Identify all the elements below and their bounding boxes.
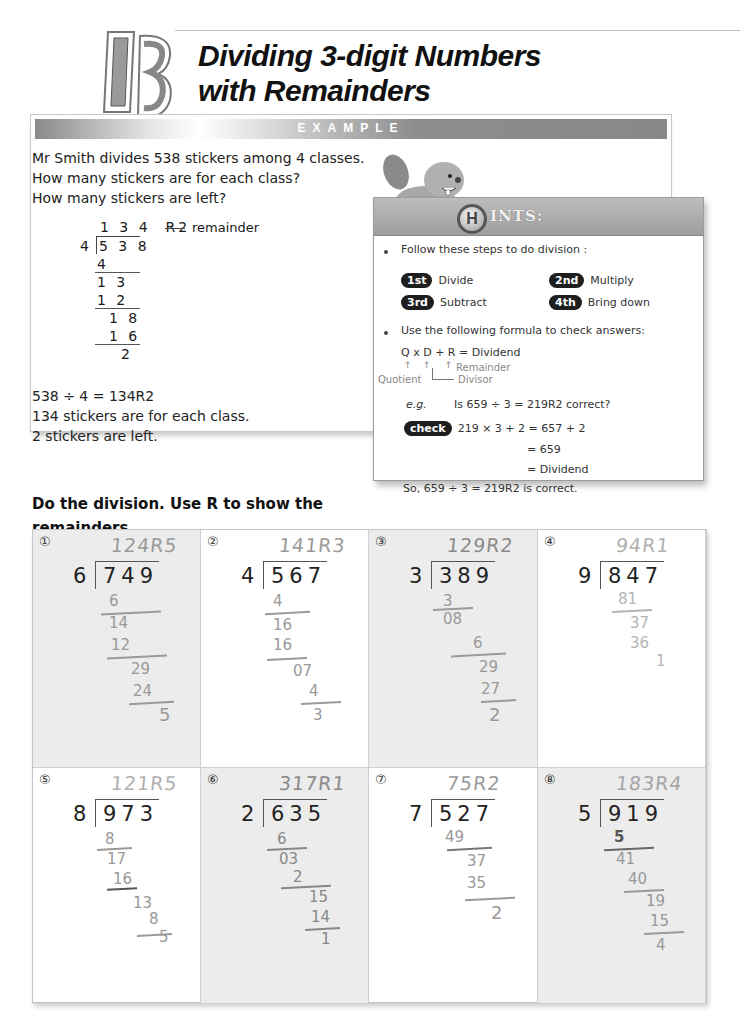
dividend: 389	[439, 564, 494, 588]
dividend: 567	[271, 564, 326, 588]
check-conclusion: So, 659 ÷ 3 = 219R2 is correct.	[403, 482, 578, 495]
divisor: 4	[80, 237, 92, 255]
step-2: 2ndMultiply	[549, 273, 634, 288]
hints-box: H INTS: Follow these steps to do divisio…	[373, 197, 704, 481]
formula: Q x D + R = Dividend	[401, 346, 521, 359]
hints-logo-icon: H	[457, 204, 487, 234]
label-remainder: Remainder	[456, 362, 510, 373]
step-1: 1stDivide	[401, 273, 473, 288]
problem-cell-6[interactable]: ⑥ 317R1 2 635 6 03 2 15 14 1	[201, 768, 369, 1004]
example-answer: 538 ÷ 4 = 134R2 134 stickers are for eac…	[32, 386, 249, 446]
bullet-icon	[384, 331, 388, 335]
hint-steps-intro: Follow these steps to do division :	[401, 243, 587, 256]
page-title: Dividing 3-digit Numbers with Remainders	[198, 38, 541, 108]
divisor: 7	[409, 802, 422, 826]
problem-cell-8[interactable]: ⑧ 183R4 5 919 5 41 40 19 15 4	[538, 768, 706, 1004]
example-problem: Mr Smith divides 538 stickers among 4 cl…	[32, 148, 364, 208]
problem-cell-1[interactable]: ① 124R5 6 749 6 14 12 29 24 5	[33, 530, 201, 768]
handwritten-answer: 121R5	[110, 772, 179, 794]
problem-cell-2[interactable]: ② 141R3 4 567 4 16 16 07 4 3	[201, 530, 369, 768]
step-4: 4thBring down	[549, 295, 650, 310]
handwritten-answer: 75R2	[446, 772, 502, 794]
check-badge: check	[404, 421, 452, 436]
check-line-1: check219 × 3 + 2 = 657 + 2	[404, 421, 585, 436]
eg-question: Is 659 ÷ 3 = 219R2 correct?	[454, 398, 610, 411]
quotient: 1 3 4 R2	[100, 218, 190, 236]
hint-formula-intro: Use the following formula to check answe…	[401, 324, 645, 337]
lesson-number-badge-icon	[100, 28, 178, 120]
divisor: 4	[241, 564, 254, 588]
problem-number: ①	[39, 534, 51, 549]
dividend: 635	[271, 802, 326, 826]
dividend: 919	[608, 802, 663, 826]
handwritten-answer: 94R1	[615, 534, 671, 556]
problem-cell-3[interactable]: ③ 129R2 3 389 3 08 6 29 27 2	[369, 530, 538, 768]
divisor: 9	[578, 564, 591, 588]
header-rule	[175, 30, 740, 31]
arrow-left-icon	[165, 228, 185, 229]
dividend: 527	[439, 802, 494, 826]
dividend: 5 3 8	[99, 237, 150, 255]
dividend: 847	[608, 564, 663, 588]
handwritten-answer: 124R5	[110, 534, 179, 556]
divisor: 6	[73, 564, 86, 588]
step-badge: 3rd	[401, 295, 434, 310]
dividend: 973	[103, 802, 158, 826]
problem-cell-7[interactable]: ⑦ 75R2 7 527 49 37 35 2	[369, 768, 538, 1004]
problem-number: ③	[375, 534, 387, 549]
exercise-grid: ① 124R5 6 749 6 14 12 29 24 5 ② 141R3 4 …	[32, 529, 707, 1003]
divisor: 3	[409, 564, 422, 588]
problem-number: ④	[544, 534, 556, 549]
connector-line	[432, 368, 454, 380]
problem-number: ⑥	[207, 772, 219, 787]
step-badge: 1st	[401, 273, 432, 288]
problem-number: ②	[207, 534, 219, 549]
problem-number: ⑦	[375, 772, 387, 787]
hints-title: INTS:	[490, 207, 543, 225]
problem-cell-5[interactable]: ⑤ 121R5 8 973 8 17 16 13 8 5	[33, 768, 201, 1004]
dividend: 749	[103, 564, 158, 588]
handwritten-answer: 129R2	[446, 534, 515, 556]
step-badge: 4th	[549, 295, 582, 310]
divisor: 8	[73, 802, 86, 826]
check-line-2: = 659	[527, 443, 561, 456]
remainder-label: remainder	[192, 219, 259, 237]
problem-number: ⑧	[544, 772, 556, 787]
example-banner: EXAMPLE	[35, 119, 667, 139]
problem-number: ⑤	[39, 772, 51, 787]
problem-cell-4[interactable]: ④ 94R1 9 847 81 37 36 1	[538, 530, 706, 768]
handwritten-answer: 141R3	[278, 534, 347, 556]
divisor: 5	[578, 802, 591, 826]
label-quotient: Quotient	[378, 374, 421, 385]
eg-label: e.g.	[406, 398, 427, 411]
bullet-icon	[384, 250, 388, 254]
hints-header: H INTS:	[374, 198, 703, 236]
divisor: 2	[241, 802, 254, 826]
step-3: 3rdSubtract	[401, 295, 487, 310]
label-divisor: Divisor	[458, 374, 493, 385]
handwritten-answer: 183R4	[615, 772, 684, 794]
check-line-3: = Dividend	[527, 463, 589, 476]
handwritten-answer: 317R1	[278, 772, 347, 794]
step-badge: 2nd	[549, 273, 584, 288]
